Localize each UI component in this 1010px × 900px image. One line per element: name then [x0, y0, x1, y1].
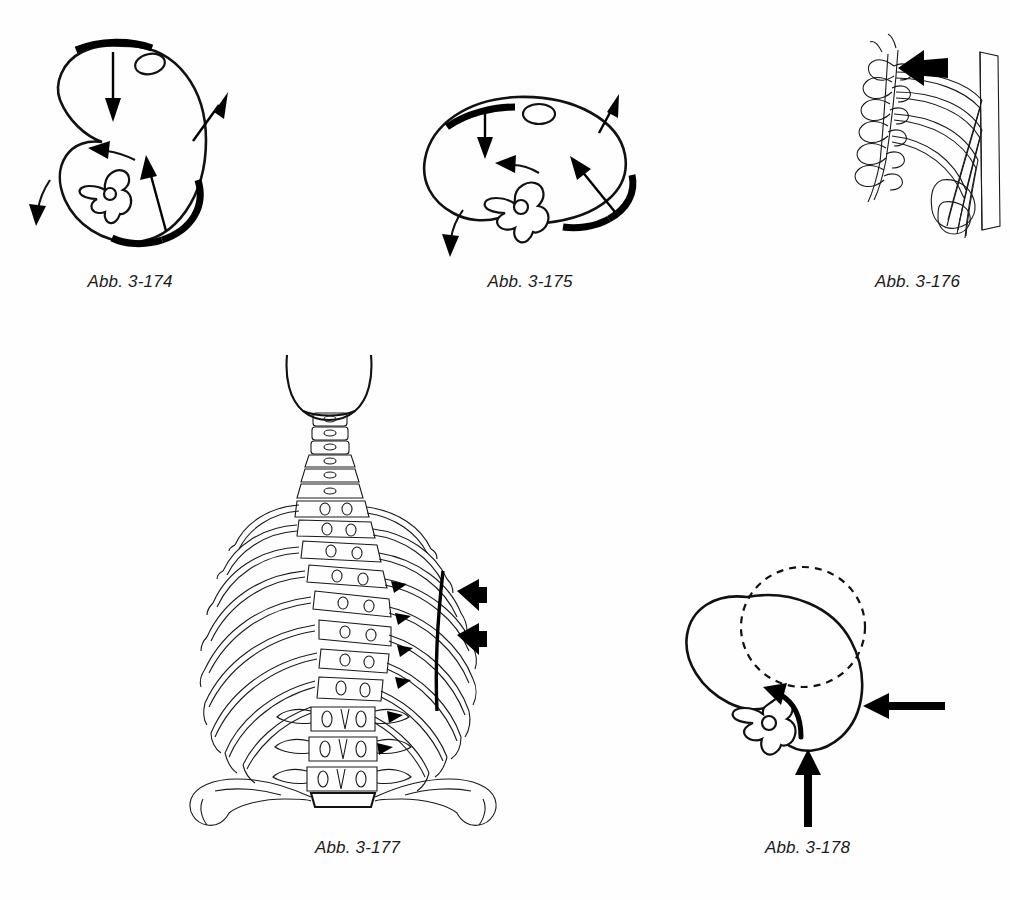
- arrow-bold-upper-left: [898, 50, 948, 86]
- rib-group: [892, 72, 982, 238]
- cervical-spine: [297, 413, 363, 498]
- vertebral-column: [855, 34, 912, 202]
- vertebra: [485, 183, 549, 243]
- arrow-bold-left-lateral: [863, 693, 945, 719]
- figure-3-174: [10, 28, 250, 268]
- figure-3-178: [665, 565, 950, 830]
- arrow-bold-up-inferior: [795, 749, 821, 827]
- figure-3-175: [405, 85, 655, 270]
- vertebra: [80, 170, 132, 223]
- arrow-bold-upper: [457, 579, 487, 611]
- caption-3-174: Abb. 3-174: [10, 272, 250, 292]
- arrow-down-top: [477, 113, 493, 159]
- caption-3-178: Abb. 3-178: [665, 838, 950, 858]
- arrow-left-curved: [495, 155, 539, 173]
- caption-3-176: Abb. 3-176: [830, 272, 1005, 292]
- rib-angle-arrowheads: [377, 581, 413, 755]
- figure-3-176: [830, 30, 1010, 270]
- caption-3-177: Abb. 3-177: [185, 838, 530, 858]
- figure-3-177: [185, 355, 530, 830]
- arrow-left-curved: [88, 141, 135, 160]
- thoracolumbar-spine: [295, 501, 391, 701]
- vertebra: [733, 698, 796, 755]
- caption-3-175: Abb. 3-175: [405, 272, 655, 292]
- skull-base: [287, 355, 372, 420]
- rib-group-left: [200, 505, 317, 783]
- arrow-down-top: [105, 52, 121, 122]
- sacrum: [311, 793, 375, 807]
- illustration-page: Abb. 3-174: [0, 0, 1010, 900]
- arrow-bold-lower: [457, 623, 487, 655]
- pelvis-iliac-crests: [190, 779, 496, 825]
- sternum-plate: [980, 52, 1000, 230]
- arrow-down-curved-left: [29, 180, 50, 226]
- sternum-oval: [523, 104, 555, 124]
- dashed-original-outline: [741, 567, 865, 687]
- arrow-up-left-inner: [570, 156, 615, 212]
- arrow-up-inner: [140, 155, 166, 231]
